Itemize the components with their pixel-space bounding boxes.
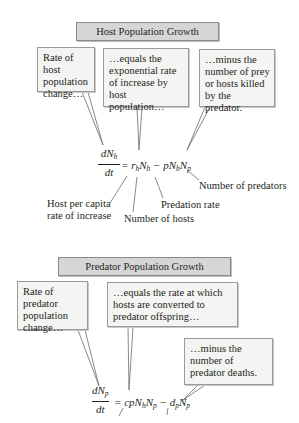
- label-predation-rate: Predation rate: [161, 199, 220, 211]
- predator-equation-fraction: dNp dt: [92, 384, 109, 415]
- host-callout-exponential-rate: …equals the exponential rate of increase…: [103, 48, 189, 107]
- predator-callout-conversion: …equals the rate at which hosts are conv…: [107, 282, 238, 327]
- predator-equation-rhs: = cpNhNp − dpNp: [114, 396, 190, 410]
- label-number-of-predators: Number of predators: [199, 180, 286, 192]
- host-title: Host Population Growth: [76, 22, 219, 41]
- host-callout-rate-change: Rate of host population change…: [37, 47, 95, 92]
- predator-callout-deaths: …minus the number of predator deaths.: [184, 338, 273, 385]
- predator-callout-rate-change: Rate of predator population change…: [17, 281, 88, 330]
- label-number-of-hosts: Number of hosts: [124, 213, 194, 225]
- label-per-capita: Host per capitarate of increase: [47, 198, 111, 222]
- host-equation-fraction: dNh dt: [98, 147, 120, 178]
- predator-title: Predator Population Growth: [58, 257, 231, 276]
- host-equation-rhs: = rhNh − pNhNp: [121, 159, 191, 173]
- host-callout-minus-killed: …minus the number of prey or hosts kille…: [199, 49, 275, 107]
